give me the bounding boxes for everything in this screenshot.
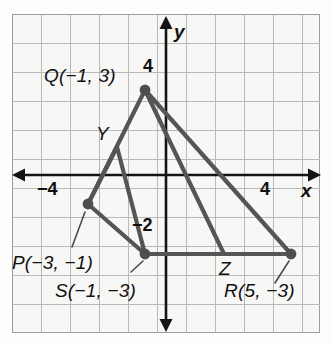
vertex-dot-R [286,249,297,260]
point-label-Z: Z [219,259,231,278]
point-label-Y: Y [96,124,109,143]
y-axis-tick-4: 4 [143,57,153,75]
point-label-Q: Q(−1, 3) [44,66,116,85]
x-axis-tick-negative-4: −4 [37,180,58,198]
vertex-dot-Q [140,85,151,96]
point-label-S: S(−1, −3) [55,281,136,300]
vertex-dot-P [83,199,94,210]
point-label-P: P(−3, −1) [12,253,93,272]
x-axis-tick-4: 4 [260,180,270,198]
x-axis-label: x [301,181,312,200]
y-axis-label: y [174,22,185,41]
y-axis-tick-negative-2: −2 [132,216,153,234]
coordinate-plane-figure: Q(−1, 3) Y P(−3, −1) S(−1, −3) Z R(5, −3… [0,0,331,344]
point-label-R: R(5, −3) [224,281,295,300]
vertex-dot-S [140,249,151,260]
